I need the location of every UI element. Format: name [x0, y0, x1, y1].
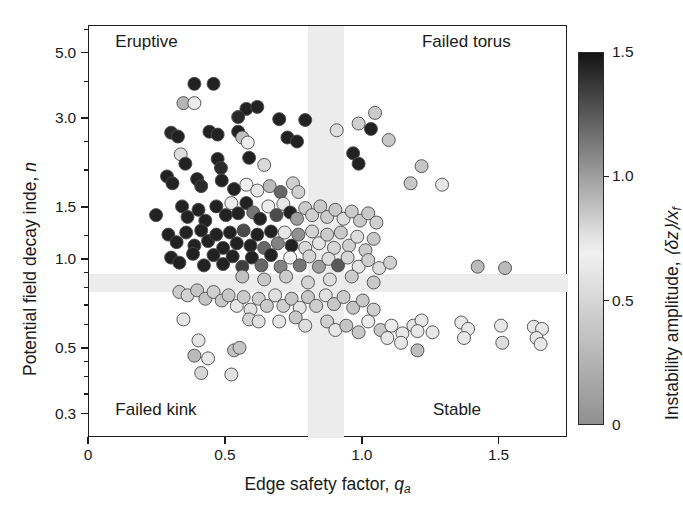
scatter-point	[330, 124, 343, 137]
y-tick-minor	[84, 169, 89, 170]
scatter-point	[278, 226, 291, 239]
quadrant-label-failed-kink: Failed kink	[115, 400, 196, 420]
y-tick-label: 1.5	[38, 198, 76, 216]
scatter-point	[321, 228, 334, 241]
scatter-point	[436, 178, 449, 191]
scatter-point	[499, 262, 512, 275]
scatter-point	[215, 174, 228, 187]
x-axis-title-text: Edge safety factor,	[244, 474, 394, 494]
scatter-point	[243, 151, 256, 164]
colorbar-symbol: ⟨δz⟩/x	[662, 210, 682, 256]
y-tick-minor	[84, 376, 89, 377]
scatter-point	[177, 313, 190, 326]
scatter-point	[187, 247, 200, 260]
colorbar-tick-label: 0.5	[612, 292, 634, 310]
scatter-point	[251, 184, 264, 197]
scatter-point	[411, 325, 424, 338]
scatter-point	[232, 111, 245, 124]
colorbar-subscript: f	[670, 207, 683, 210]
y-tick-major	[81, 347, 88, 349]
scatter-point	[254, 212, 267, 225]
scatter-point	[292, 186, 305, 199]
colorbar-tick-label: 1.5	[612, 43, 634, 61]
x-tick-major	[361, 437, 363, 444]
scatter-point	[237, 224, 250, 237]
scatter-point	[367, 276, 380, 289]
scatter-point	[280, 270, 293, 283]
scatter-point	[273, 113, 286, 126]
colorbar-tick-label: 0	[612, 416, 621, 434]
scatter-point	[188, 97, 201, 110]
scatter-point	[274, 186, 287, 199]
scatter-point	[192, 334, 205, 347]
x-tick-major	[498, 437, 500, 444]
scatter-point	[202, 352, 215, 365]
scatter-point	[222, 289, 235, 302]
scatter-point	[323, 273, 336, 286]
y-tick-major	[81, 52, 88, 54]
scatter-point	[171, 130, 184, 143]
scatter-point	[211, 128, 224, 141]
scatter-point	[341, 251, 354, 264]
colorbar	[578, 52, 604, 425]
scatter-point	[225, 368, 238, 381]
plot-area	[88, 25, 567, 437]
scatter-point	[219, 209, 232, 222]
colorbar-title: Instability amplitude, ⟨δz⟩/xf	[662, 207, 683, 420]
x-tick-label: 1.0	[337, 446, 387, 464]
scatter-point	[337, 291, 350, 304]
scatter-point	[404, 177, 417, 190]
y-tick-major	[81, 258, 88, 260]
quadrant-label-failed-torus: Failed torus	[422, 32, 511, 52]
scatter-point	[345, 270, 358, 283]
scatter-point	[188, 349, 201, 362]
scatter-point	[237, 291, 250, 304]
scatter-point	[291, 212, 304, 225]
x-axis-subscript: a	[404, 482, 411, 496]
y-axis-symbol: n	[20, 162, 40, 172]
y-tick-minor	[84, 361, 89, 362]
x-axis-symbol: q	[394, 474, 404, 494]
scatter-point	[356, 294, 369, 307]
scatter-point	[306, 225, 319, 238]
scatter-point	[269, 289, 282, 302]
y-tick-minor	[84, 141, 89, 142]
scatter-point	[255, 259, 268, 272]
scatter-point	[258, 158, 271, 171]
scatter-point	[364, 122, 377, 135]
scatter-point	[411, 344, 424, 357]
scatter-point	[292, 228, 305, 241]
scatter-point	[233, 341, 246, 354]
y-tick-minor	[84, 324, 89, 325]
y-tick-minor	[84, 393, 89, 394]
scatter-point	[260, 299, 273, 312]
scatter-point	[236, 270, 249, 283]
scatter-point	[395, 336, 408, 349]
x-tick-label: 0	[63, 446, 113, 464]
y-tick-label: 1.0	[38, 250, 76, 268]
scatter-point	[334, 226, 347, 239]
scatter-point	[385, 319, 398, 332]
scatter-point	[241, 136, 254, 149]
scatter-point	[352, 326, 365, 339]
scatter-point	[291, 135, 304, 148]
scatter-point	[258, 273, 271, 286]
scatter-point	[195, 180, 208, 193]
figure-root: Potential field decay inde, n Edge safet…	[0, 0, 683, 518]
scatter-point	[228, 183, 241, 196]
quadrant-label-stable: Stable	[433, 400, 481, 420]
scatter-point	[226, 250, 239, 263]
scatter-point	[170, 236, 183, 249]
colorbar-title-text: Instability amplitude,	[662, 257, 682, 420]
scatter-point	[252, 315, 265, 328]
scatter-point	[179, 157, 192, 170]
scatter-point	[382, 134, 395, 147]
scatter-point	[188, 77, 201, 90]
scatter-point	[251, 228, 264, 241]
y-axis-title-text: Potential field decay inde,	[20, 172, 40, 376]
scatter-point	[384, 256, 397, 269]
scatter-point	[415, 160, 428, 173]
scatter-point	[301, 276, 314, 289]
y-tick-minor	[84, 235, 89, 236]
scatter-point	[265, 225, 278, 238]
